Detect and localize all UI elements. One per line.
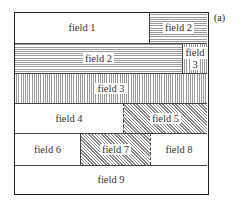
field-2: field 2 <box>15 43 182 73</box>
field-8: field 8 <box>150 133 207 165</box>
field-1-label: field 1 <box>68 22 95 34</box>
diagram-label: (a) <box>214 12 225 23</box>
field-4-label: field 4 <box>55 113 82 125</box>
field-7-label: field 7 <box>100 144 131 156</box>
field-3-small-label-line1: field <box>183 47 206 59</box>
field-3-label: field 3 <box>95 83 126 95</box>
field-3-small-label-line2: 3 <box>190 59 199 71</box>
field-8-label: field 8 <box>165 144 192 156</box>
field-5-label: field 5 <box>150 113 181 125</box>
field-4: field 4 <box>15 103 123 133</box>
field-6-label: field 6 <box>34 144 61 156</box>
field-7: field 7 <box>80 133 150 165</box>
field-3-small: field 3 <box>182 43 207 73</box>
field-6: field 6 <box>15 133 80 165</box>
field-9-label: field 9 <box>97 174 124 186</box>
field-2-label: field 2 <box>83 53 114 65</box>
field-layout-diagram: field 1 field 2 field 2 field 3 field 3 … <box>14 12 209 195</box>
field-3: field 3 <box>15 73 207 103</box>
field-1: field 1 <box>15 13 149 43</box>
field-9: field 9 <box>15 165 207 193</box>
field-5: field 5 <box>123 103 207 133</box>
field-2-top: field 2 <box>149 13 207 43</box>
field-2-top-label: field 2 <box>163 22 194 34</box>
